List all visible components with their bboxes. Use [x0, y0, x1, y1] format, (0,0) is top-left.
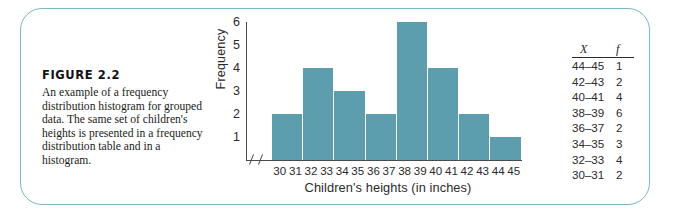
table-cell-x: 38–39 — [572, 106, 612, 119]
x-axis-label: Children's heights (in inches) — [252, 180, 524, 195]
table-row: 44–451 — [572, 58, 634, 74]
table-cell-f: 3 — [616, 137, 628, 150]
figure-number-title: FIGURE 2.2 — [42, 68, 210, 82]
x-axis-tick: 36 — [365, 164, 381, 177]
table-cell-x: 34–35 — [572, 137, 612, 150]
histogram-bar — [366, 114, 397, 160]
table-cell-f: 6 — [616, 106, 628, 119]
table-cell-f: 2 — [616, 168, 628, 181]
table-cell-f: 4 — [616, 153, 628, 166]
x-axis-tick: 35 — [350, 164, 366, 177]
table-body: 44–45142–43240–41438–39636–37234–35332–3… — [572, 58, 634, 183]
table-cell-f: 4 — [616, 90, 628, 103]
table-cell-f: 2 — [616, 121, 628, 134]
histogram-bars — [272, 22, 522, 160]
table-cell-x: 42–43 — [572, 75, 612, 88]
table-cell-x: 32–33 — [572, 153, 612, 166]
x-axis-tick: 40 — [428, 164, 444, 177]
x-axis-line — [246, 160, 522, 161]
table-cell-x: 36–37 — [572, 121, 612, 134]
figure-caption-text: An example of a frequency distribution h… — [42, 86, 210, 168]
table-cell-f: 2 — [616, 75, 628, 88]
x-axis-tick: 31 — [287, 164, 303, 177]
x-axis-tick: 43 — [475, 164, 491, 177]
table-row: 34–353 — [572, 136, 634, 152]
x-axis-tick: 37 — [381, 164, 397, 177]
histogram-bar — [272, 114, 303, 160]
x-axis-tick: 38 — [397, 164, 413, 177]
x-axis-tick: 34 — [334, 164, 350, 177]
histogram-bar — [428, 68, 459, 160]
x-axis-tick: 45 — [506, 164, 522, 177]
table-cell-x: 30–31 — [572, 168, 612, 181]
table-cell-x: 40–41 — [572, 90, 612, 103]
figure-container: FIGURE 2.2 An example of a frequency dis… — [0, 0, 676, 216]
table-row: 42–432 — [572, 74, 634, 90]
x-axis-tick: 33 — [319, 164, 335, 177]
table-row: 36–372 — [572, 120, 634, 136]
table-row: 32–334 — [572, 152, 634, 168]
x-axis-tick-labels: 30313233343536373839404142434445 — [272, 164, 524, 178]
table-row: 38–396 — [572, 105, 634, 121]
table-header-row: X f — [572, 42, 634, 58]
column-header-f: f — [616, 42, 619, 57]
histogram-bar — [334, 91, 365, 160]
x-axis-tick: 44 — [490, 164, 506, 177]
y-axis-tick-labels: 654321 — [226, 14, 240, 162]
histogram-bar — [490, 137, 521, 160]
y-axis-tick: 5 — [226, 39, 240, 51]
x-axis-tick: 30 — [272, 164, 288, 177]
y-axis-tick: 4 — [226, 62, 240, 74]
x-axis-tick: 39 — [412, 164, 428, 177]
x-axis-tick: 41 — [443, 164, 459, 177]
figure-caption-block: FIGURE 2.2 An example of a frequency dis… — [42, 68, 210, 168]
y-axis-tick: 1 — [226, 131, 240, 143]
x-axis-tick: 32 — [303, 164, 319, 177]
histogram-bar — [303, 68, 334, 160]
y-axis-line — [246, 22, 247, 160]
table-row: 40–414 — [572, 89, 634, 105]
table-row: 30–312 — [572, 167, 634, 183]
y-axis-tick: 6 — [226, 16, 240, 28]
table-cell-f: 1 — [616, 59, 628, 72]
table-cell-x: 44–45 — [572, 59, 612, 72]
histogram-bar — [397, 22, 428, 160]
histogram-chart: Frequency 654321 30313233343536373839404… — [204, 14, 524, 202]
x-axis-tick: 42 — [459, 164, 475, 177]
y-axis-tick: 2 — [226, 108, 240, 120]
histogram-bar — [459, 114, 490, 160]
frequency-distribution-table: X f 44–45142–43240–41438–39636–37234–353… — [572, 42, 634, 183]
column-header-x: X — [580, 42, 587, 57]
y-axis-tick: 3 — [226, 85, 240, 97]
